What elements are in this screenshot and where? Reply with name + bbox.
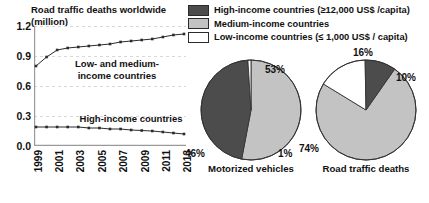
y-tick-label: 0.9 bbox=[16, 50, 31, 62]
legend-label: Medium-income countries bbox=[214, 19, 329, 29]
x-tick-label: 2005 bbox=[97, 150, 108, 172]
series-marker bbox=[162, 36, 165, 39]
series-marker bbox=[109, 43, 112, 46]
series-marker bbox=[66, 47, 69, 50]
series-marker bbox=[77, 126, 80, 129]
series-marker bbox=[35, 126, 38, 129]
pie-caption-motorized-vehicles: Motorized vehicles bbox=[192, 163, 310, 174]
pie-chart-road-traffic-deaths: Road traffic deaths 74% 16% 10% bbox=[307, 58, 425, 174]
swatch-medium-income bbox=[188, 18, 209, 29]
series-annotation-low-medium: Low- and medium- income countries bbox=[57, 58, 177, 81]
y-tick-label: 0.0 bbox=[16, 140, 31, 152]
figure-road-traffic-deaths: Road traffic deaths worldwide (million) … bbox=[0, 0, 429, 203]
x-tick-label: 1999 bbox=[33, 150, 44, 172]
series-marker bbox=[172, 34, 175, 37]
pie-caption-road-traffic-deaths: Road traffic deaths bbox=[307, 163, 425, 174]
series-marker bbox=[88, 45, 91, 48]
y-tick-label: 0.3 bbox=[16, 110, 31, 122]
series-marker bbox=[130, 129, 133, 132]
pie-value-label-high: 10% bbox=[396, 72, 416, 83]
series-marker bbox=[35, 65, 38, 68]
series-marker bbox=[172, 132, 175, 135]
pie-chart-motorized-vehicles-graphic bbox=[199, 58, 303, 162]
y-tick-label: 0.6 bbox=[16, 80, 31, 92]
x-axis-tick-labels: 1999 2001 2003 2005 2007 2009 2011 2013 bbox=[34, 150, 186, 200]
series-marker bbox=[119, 41, 122, 44]
line-chart-title: Road traffic deaths worldwide (million) bbox=[31, 4, 181, 28]
series-marker bbox=[77, 46, 80, 49]
series-annotation-high-income: High-income countries bbox=[76, 113, 186, 125]
series-marker bbox=[45, 126, 48, 129]
series-marker bbox=[56, 126, 59, 129]
legend-label: Low-income countries (≤ 1,000 US$ / capi… bbox=[214, 32, 408, 42]
x-tick-label: 2001 bbox=[54, 150, 65, 172]
legend: High-income countries (≥12,000 US$ /capi… bbox=[188, 4, 428, 45]
pie-chart-motorized-vehicles: Motorized vehicles 53% 46% 1% bbox=[192, 58, 310, 174]
swatch-low-income bbox=[188, 32, 209, 43]
series-marker bbox=[162, 131, 165, 134]
pie-value-label-high: 46% bbox=[185, 148, 205, 159]
series-marker bbox=[88, 127, 91, 130]
series-marker bbox=[151, 130, 154, 133]
line-chart: Road traffic deaths worldwide (million) … bbox=[0, 0, 196, 203]
series-marker bbox=[66, 126, 69, 129]
swatch-high-income bbox=[188, 5, 209, 16]
series-marker bbox=[56, 49, 59, 52]
series-marker bbox=[130, 40, 133, 43]
series-marker bbox=[45, 56, 48, 59]
series-marker bbox=[183, 133, 186, 136]
series-marker bbox=[151, 38, 154, 41]
series-marker bbox=[98, 44, 101, 47]
pie-slice bbox=[201, 60, 251, 159]
pie-value-label-low: 16% bbox=[353, 47, 373, 58]
pie-value-label-low: 1% bbox=[278, 148, 292, 159]
x-tick-label: 2003 bbox=[75, 150, 86, 172]
line-chart-plot-area bbox=[34, 26, 186, 146]
legend-item-high-income: High-income countries (≥12,000 US$ /capi… bbox=[188, 4, 428, 16]
x-tick-label: 2007 bbox=[118, 150, 129, 172]
annot-line-2: income countries bbox=[78, 70, 157, 81]
pie-value-label-medium: 53% bbox=[265, 64, 285, 75]
x-tick-label: 2009 bbox=[140, 150, 151, 172]
x-tick-label: 2011 bbox=[161, 150, 172, 172]
series-marker bbox=[109, 128, 112, 131]
legend-item-medium-income: Medium-income countries bbox=[188, 18, 428, 30]
annot-line-1: Low- and medium- bbox=[75, 58, 159, 69]
y-tick-label: 1.2 bbox=[16, 20, 31, 32]
pie-value-label-medium: 74% bbox=[299, 143, 319, 154]
series-marker bbox=[140, 129, 143, 132]
series-marker bbox=[140, 39, 143, 42]
series-marker bbox=[98, 127, 101, 130]
series-marker bbox=[183, 33, 186, 36]
y-axis-tick-labels: 1.2 0.9 0.6 0.3 0.0 bbox=[0, 26, 31, 146]
legend-item-low-income: Low-income countries (≤ 1,000 US$ / capi… bbox=[188, 31, 428, 43]
series-marker bbox=[119, 128, 122, 131]
legend-label: High-income countries (≥12,000 US$ /capi… bbox=[214, 5, 410, 15]
